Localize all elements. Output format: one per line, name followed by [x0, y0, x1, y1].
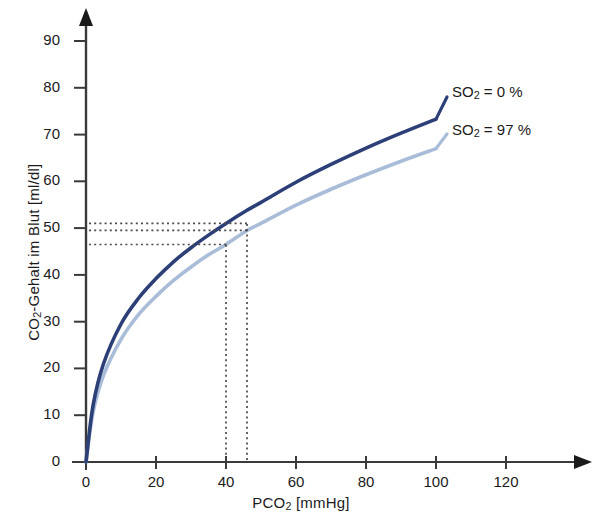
x-tick-label-60: 60	[276, 473, 316, 490]
x-tick-label-0: 0	[66, 473, 106, 490]
x-tick-label-80: 80	[346, 473, 386, 490]
y-tick-label-20: 20	[26, 358, 60, 375]
x-axis-title: PCO2 [mmHg]	[0, 494, 602, 512]
legend-label-so2-97: SO2 = 97 %	[452, 121, 531, 139]
y-tick-label-90: 90	[26, 31, 60, 48]
curve-draft-mask	[0, 0, 602, 523]
y-tick-label-50: 50	[26, 218, 60, 235]
legend-label-so2-0: SO2 = 0 %	[452, 83, 523, 101]
y-tick-label-10: 10	[26, 405, 60, 422]
x-tick-label-120: 120	[486, 473, 526, 490]
co2-dissociation-chart	[0, 0, 602, 523]
y-tick-label-70: 70	[26, 125, 60, 142]
y-tick-label-80: 80	[26, 78, 60, 95]
y-tick-label-0: 0	[26, 452, 60, 469]
x-tick-label-20: 20	[136, 473, 176, 490]
x-tick-label-100: 100	[416, 473, 456, 490]
x-tick-label-40: 40	[206, 473, 246, 490]
y-tick-label-60: 60	[26, 171, 60, 188]
y-tick-label-40: 40	[26, 265, 60, 282]
y-tick-label-30: 30	[26, 312, 60, 329]
y-axis-title: CO2-Gehalt im Blut [ml/dl]	[25, 122, 43, 382]
